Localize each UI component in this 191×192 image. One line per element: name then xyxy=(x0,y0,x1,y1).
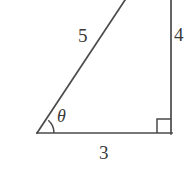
vertical-leg-label: 4 xyxy=(174,25,184,44)
angle-theta-label: θ xyxy=(57,107,66,125)
right-angle-marker xyxy=(157,119,171,133)
hypotenuse-label: 5 xyxy=(78,26,88,45)
angle-arc xyxy=(48,120,54,133)
base-leg-label: 3 xyxy=(99,143,109,162)
hypotenuse-line xyxy=(37,0,127,133)
triangle-diagram: 5 4 3 θ xyxy=(0,0,191,192)
triangle-svg xyxy=(0,0,191,192)
